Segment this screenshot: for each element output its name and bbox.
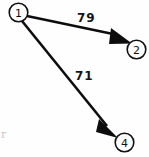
diagram-canvas: 79 71 1 2 4 r <box>0 0 149 157</box>
edge-1-to-2[interactable]: 79 <box>27 11 132 44</box>
edge-1-to-4-arrowhead-icon <box>96 119 118 138</box>
graph-node-4[interactable]: 4 <box>115 133 134 152</box>
graph-svg: 79 71 1 2 4 <box>0 0 149 157</box>
edge-1-to-4-weight-label: 71 <box>75 69 94 83</box>
edge-1-to-2-weight-label: 79 <box>77 11 96 25</box>
graph-node-2[interactable]: 2 <box>127 40 146 59</box>
edge-1-to-2-line <box>27 16 113 34</box>
scan-edge-artifact: r <box>1 129 6 140</box>
graph-node-2-label: 2 <box>133 44 140 57</box>
graph-node-1[interactable]: 1 <box>9 3 28 22</box>
edge-1-to-4-line <box>22 21 107 126</box>
graph-node-1-label: 1 <box>15 7 22 20</box>
graph-node-4-label: 4 <box>121 137 128 150</box>
edge-1-to-2-arrowhead-icon <box>109 28 132 44</box>
edge-1-to-4[interactable]: 71 <box>22 21 118 138</box>
